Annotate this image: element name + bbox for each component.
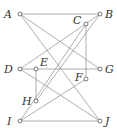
- node-label-e: E: [39, 56, 48, 69]
- node-i-icon: [18, 119, 22, 123]
- node-g-icon: [98, 67, 102, 71]
- node-label-g: G: [105, 63, 114, 76]
- node-c-icon: [84, 22, 88, 26]
- node-label-d: D: [3, 63, 13, 76]
- node-label-h: H: [21, 95, 32, 108]
- node-label-i: I: [6, 115, 12, 128]
- node-label-f: F: [74, 71, 83, 84]
- node-label-a: A: [3, 8, 12, 21]
- node-d-icon: [18, 67, 22, 71]
- node-f-icon: [84, 77, 88, 81]
- node-a-icon: [18, 12, 22, 16]
- node-b-icon: [98, 12, 102, 16]
- edges-group: [20, 14, 100, 121]
- node-h-icon: [34, 99, 38, 103]
- node-label-b: B: [104, 8, 113, 21]
- graph-diagram: ABCDEFGHIJ: [0, 0, 117, 128]
- node-label-j: J: [103, 115, 110, 128]
- node-label-c: C: [73, 14, 82, 27]
- node-j-icon: [98, 119, 102, 123]
- node-e-icon: [34, 67, 38, 71]
